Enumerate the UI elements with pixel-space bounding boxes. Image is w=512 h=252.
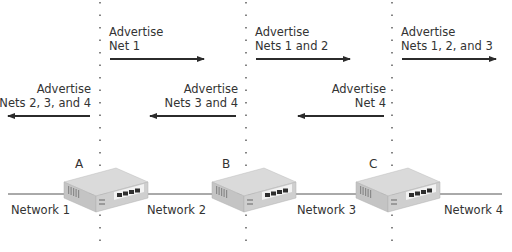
network-2-label: Network 2	[147, 203, 206, 217]
advert-left-1: Advertise Nets 2, 3, and 4	[0, 82, 91, 110]
advert-left-2-line1: Advertise	[165, 82, 238, 96]
advert-left-1-line1: Advertise	[0, 82, 91, 96]
advert-right-2-line1: Advertise	[255, 25, 328, 39]
router-c-icon	[356, 168, 440, 212]
advert-right-1-line2: Net 1	[109, 39, 163, 53]
advert-left-3: Advertise Net 4	[332, 82, 386, 110]
advert-right-2-line2: Nets 1 and 2	[255, 39, 328, 53]
advert-right-3-line2: Nets 1, 2, and 3	[401, 39, 493, 53]
advert-right-3: Advertise Nets 1, 2, and 3	[401, 25, 493, 53]
router-a-icon	[64, 168, 148, 212]
advert-left-2-line2: Nets 3 and 4	[165, 96, 238, 110]
advert-right-1-line1: Advertise	[109, 25, 163, 39]
network-3-label: Network 3	[297, 203, 356, 217]
advert-left-3-line1: Advertise	[332, 82, 386, 96]
network-1-label: Network 1	[11, 203, 70, 217]
router-c-label: C	[369, 157, 377, 171]
router-a-label: A	[75, 157, 83, 171]
router-b-label: B	[222, 157, 230, 171]
advert-right-2: Advertise Nets 1 and 2	[255, 25, 328, 53]
advert-right-3-line1: Advertise	[401, 25, 493, 39]
advert-left-2: Advertise Nets 3 and 4	[165, 82, 238, 110]
router-b-icon	[212, 168, 296, 212]
advert-left-1-line2: Nets 2, 3, and 4	[0, 96, 91, 110]
advert-right-1: Advertise Net 1	[109, 25, 163, 53]
advert-left-3-line2: Net 4	[332, 96, 386, 110]
network-4-label: Network 4	[444, 203, 503, 217]
